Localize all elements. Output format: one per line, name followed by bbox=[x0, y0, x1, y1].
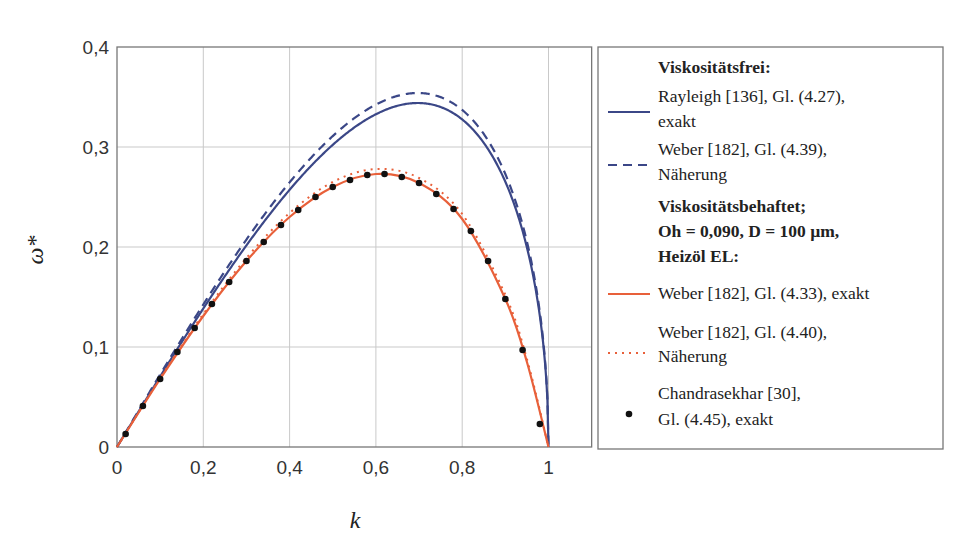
data-point bbox=[519, 347, 526, 354]
data-point bbox=[468, 228, 475, 235]
data-point bbox=[157, 376, 164, 383]
legend-entry-label: exakt bbox=[658, 111, 696, 131]
legend-entry-label: Näherung bbox=[658, 164, 727, 184]
x-tick-label: 0,2 bbox=[190, 457, 216, 478]
data-point bbox=[174, 349, 181, 356]
axis-ticks: 00,20,40,60,8100,10,20,30,4 bbox=[83, 37, 554, 478]
data-point bbox=[140, 403, 147, 410]
data-point bbox=[243, 258, 250, 265]
x-tick-label: 0,4 bbox=[276, 457, 303, 478]
chart: 00,20,40,60,8100,10,20,30,4 k ω* Viskosi… bbox=[0, 0, 976, 550]
data-point bbox=[226, 279, 233, 286]
data-point bbox=[485, 258, 492, 265]
y-tick-label: 0,1 bbox=[83, 337, 109, 358]
legend-entry-label: Weber [182], Gl. (4.33), exakt bbox=[658, 283, 870, 303]
data-point bbox=[347, 177, 354, 184]
legend-heading: Heizöl EL: bbox=[658, 246, 739, 266]
legend-heading: Viskositätsbehaftet; bbox=[658, 196, 806, 216]
data-point bbox=[122, 431, 129, 438]
data-series bbox=[117, 93, 549, 447]
y-axis-label-group: ω* bbox=[22, 236, 48, 265]
data-point bbox=[312, 194, 319, 201]
x-tick-label: 0 bbox=[112, 457, 123, 478]
legend-entry-label: Weber [182], Gl. (4.39), bbox=[658, 139, 827, 159]
data-point bbox=[433, 191, 440, 198]
y-axis-label: ω* bbox=[22, 236, 48, 265]
legend-heading: Viskositätsfrei: bbox=[658, 57, 771, 77]
legend-marker-icon bbox=[626, 411, 633, 418]
grid-lines bbox=[117, 47, 592, 447]
data-point bbox=[295, 207, 302, 214]
data-point bbox=[260, 239, 267, 246]
y-tick-label: 0 bbox=[98, 437, 109, 458]
legend-entry-label: Rayleigh [136], Gl. (4.27), bbox=[658, 86, 845, 106]
data-point bbox=[502, 296, 509, 303]
legend-entry-label: Näherung bbox=[658, 346, 727, 366]
data-point bbox=[450, 206, 457, 213]
data-point bbox=[364, 172, 371, 179]
legend: Viskositätsfrei:Viskositätsbehaftet;Oh =… bbox=[598, 47, 943, 449]
legend-entry-label: Gl. (4.45), exakt bbox=[658, 409, 773, 429]
x-tick-label: 0,6 bbox=[363, 457, 389, 478]
y-tick-label: 0,3 bbox=[83, 137, 109, 158]
y-tick-label: 0,2 bbox=[83, 237, 109, 258]
legend-entry-label: Weber [182], Gl. (4.40), bbox=[658, 322, 827, 342]
legend-heading: Oh = 0,090, D = 100 µm, bbox=[658, 221, 839, 241]
series-line bbox=[117, 174, 549, 447]
data-point bbox=[416, 180, 423, 187]
legend-entry-label: Chandrasekhar [30], bbox=[658, 383, 801, 403]
series-line bbox=[117, 103, 549, 447]
series-line bbox=[117, 169, 549, 447]
x-axis-label: k bbox=[350, 507, 361, 533]
data-point bbox=[278, 222, 285, 229]
data-point bbox=[381, 171, 388, 178]
data-point bbox=[537, 421, 544, 428]
data-point bbox=[329, 184, 336, 191]
data-point bbox=[398, 174, 405, 181]
data-point bbox=[209, 301, 216, 308]
x-tick-label: 0,8 bbox=[449, 457, 475, 478]
data-point bbox=[191, 325, 198, 332]
y-tick-label: 0,4 bbox=[83, 37, 110, 58]
x-tick-label: 1 bbox=[543, 457, 554, 478]
